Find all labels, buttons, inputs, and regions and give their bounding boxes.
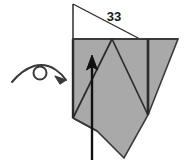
diagram-canvas: 33 (0, 0, 194, 164)
paper-model (73, 4, 178, 158)
turn-over-symbol (12, 65, 66, 84)
origami-step-diagram: 33 (0, 0, 194, 164)
turn-over-loop-circle (34, 67, 47, 80)
paper-body-shaded (73, 39, 178, 158)
step-number-label: 33 (107, 9, 121, 24)
